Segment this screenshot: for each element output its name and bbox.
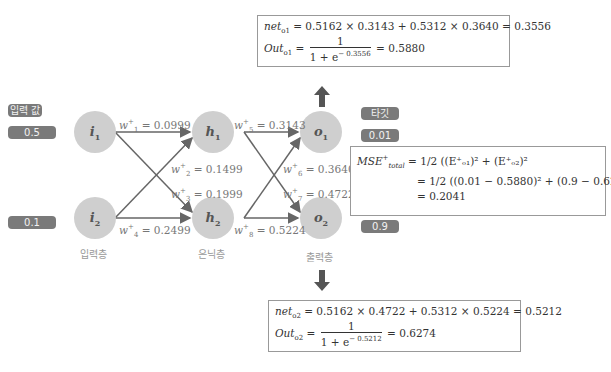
weight-w8: w+8 = 0.5224 bbox=[234, 223, 306, 239]
output-layer-label: 출력층 bbox=[306, 249, 333, 264]
edge-i2-h1 bbox=[115, 138, 192, 218]
input-value-label: 입력 값 bbox=[8, 104, 42, 117]
weight-w4: w+4 = 0.2499 bbox=[119, 223, 191, 239]
hidden-layer-label: 은닉층 bbox=[198, 246, 225, 261]
node-i2: i2 bbox=[74, 197, 116, 239]
target-o2-value: 0.9 bbox=[361, 220, 399, 233]
weight-w6: w+6 = 0.3640 bbox=[283, 162, 355, 178]
input-i1-value: 0.5 bbox=[8, 126, 56, 139]
sigmoid-fraction: 1 1 + e− 0.3556 bbox=[310, 35, 371, 63]
target-o1-value: 0.01 bbox=[361, 129, 399, 142]
node-i1: i1 bbox=[74, 111, 116, 153]
weight-w2: w+2 = 0.1499 bbox=[171, 162, 243, 178]
out-o2-line: Outo2 = 1 1 + e− 0.5212 = 0.6274 bbox=[275, 320, 514, 348]
weight-w3: w+3 = 0.1999 bbox=[171, 187, 243, 203]
node-o2: o2 bbox=[300, 197, 342, 239]
out-o1-line: Outo1 = 1 1 + e− 0.3556 = 0.5880 bbox=[264, 35, 503, 63]
input-i2-value: 0.1 bbox=[8, 216, 56, 229]
input-layer-label: 입력층 bbox=[80, 246, 107, 261]
arrow-up-icon bbox=[314, 86, 330, 107]
weight-w7: w+7 = 0.4722 bbox=[283, 187, 355, 203]
weight-w5: w+5 = 0.3143 bbox=[234, 118, 306, 134]
node-h1: h1 bbox=[192, 111, 234, 153]
weight-w1: w+1 = 0.0999 bbox=[119, 118, 191, 134]
sigmoid-fraction: 1 1 + e− 0.5212 bbox=[321, 320, 382, 348]
arrow-down-icon bbox=[314, 270, 330, 291]
edge-h2-o1 bbox=[244, 138, 300, 218]
node-o1: o1 bbox=[300, 111, 342, 153]
node-h2: h2 bbox=[192, 197, 234, 239]
o2-formula-box: neto2 = 0.5162 × 0.4722 + 0.5312 × 0.522… bbox=[268, 300, 521, 352]
net-o1-line: neto1 = 0.5162 × 0.3143 + 0.5312 × 0.364… bbox=[264, 20, 503, 35]
mse-formula-box: MSE+total = 1/2 ((E⁺ₒ₁)² + (E⁺ₒ₂)² = 1/2… bbox=[350, 146, 606, 216]
o1-formula-box: neto1 = 0.5162 × 0.3143 + 0.5312 × 0.364… bbox=[257, 15, 510, 67]
target-label: 타깃 bbox=[361, 107, 399, 120]
net-o2-line: neto2 = 0.5162 × 0.4722 + 0.5312 × 0.522… bbox=[275, 305, 514, 320]
